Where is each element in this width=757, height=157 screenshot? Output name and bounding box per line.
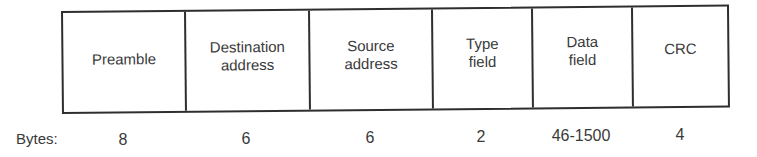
field-label: Data field bbox=[566, 32, 598, 68]
field-label: CRC bbox=[664, 39, 697, 57]
field-preamble: Preamble bbox=[63, 12, 187, 112]
bytes-crc: 4 bbox=[630, 126, 730, 144]
field-destination-address: Destination address bbox=[186, 11, 311, 111]
field-label: Destination address bbox=[210, 37, 285, 74]
bytes-destination-address: 6 bbox=[196, 130, 296, 148]
bytes-preamble: 8 bbox=[73, 131, 173, 149]
field-type: Type field bbox=[433, 8, 534, 108]
field-label: Source address bbox=[344, 36, 398, 73]
field-source-address: Source address bbox=[310, 9, 434, 109]
field-crc: CRC bbox=[633, 7, 728, 107]
field-label: Type field bbox=[466, 34, 499, 70]
bytes-data-field: 46-1500 bbox=[531, 127, 631, 145]
bytes-type-field: 2 bbox=[431, 128, 531, 146]
bytes-source-address: 6 bbox=[320, 129, 420, 147]
bytes-row: Bytes: 8 6 6 2 46-1500 4 bbox=[0, 126, 757, 150]
frame-format-diagram: Preamble Destination address Source addr… bbox=[61, 5, 730, 114]
bytes-label: Bytes: bbox=[16, 130, 58, 147]
field-label: Preamble bbox=[92, 50, 156, 69]
field-data: Data field bbox=[533, 8, 634, 108]
